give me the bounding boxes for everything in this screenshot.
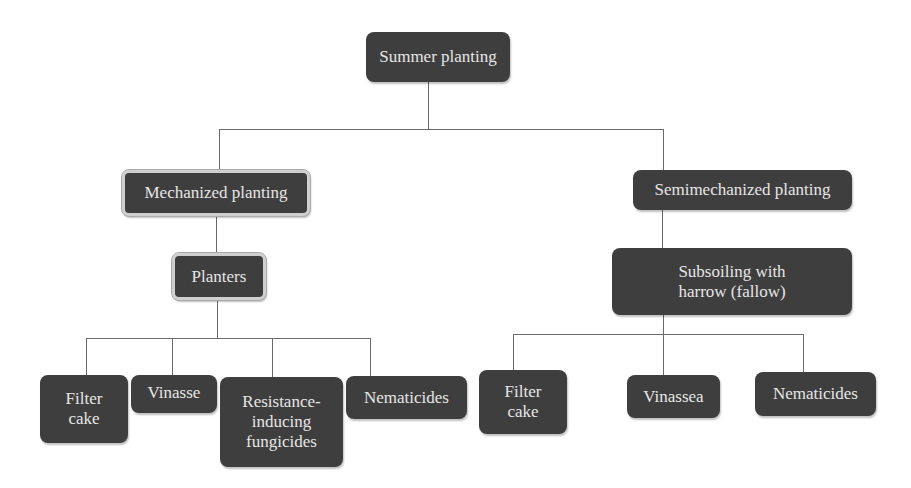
- node-label: Filter cake: [66, 389, 103, 429]
- connector-right-child-3: [803, 334, 804, 372]
- connector-left-child-2: [172, 338, 173, 375]
- node-label: Nematicides: [364, 388, 449, 408]
- node-left-vinasse: Vinasse: [131, 375, 217, 413]
- node-mechanized-planting: Mechanized planting: [122, 170, 310, 216]
- connector-left-child-1: [86, 338, 87, 375]
- node-label: Subsoiling with harrow (fallow): [678, 262, 785, 302]
- connector-subsoiling-down: [663, 315, 664, 334]
- node-label: Filter cake: [505, 382, 542, 422]
- connector-right-child-1: [513, 334, 514, 370]
- connector-semimech-to-subsoiling: [662, 210, 663, 248]
- node-label: Planters: [192, 267, 247, 287]
- connector-left-child-4: [370, 338, 371, 376]
- connector-to-semimechanized: [663, 129, 664, 170]
- node-right-filter-cake: Filter cake: [479, 370, 567, 434]
- connector-to-mechanized: [219, 129, 220, 170]
- connector-root-down: [428, 82, 429, 129]
- node-semimechanized-planting: Semimechanized planting: [633, 170, 852, 210]
- node-label: Summer planting: [379, 47, 497, 67]
- connector-right-child-2: [663, 334, 664, 375]
- node-label: Nematicides: [773, 384, 858, 404]
- connector-left-child-3: [272, 338, 273, 377]
- connector-right-children-bus: [513, 334, 804, 335]
- node-right-nematicides: Nematicides: [755, 372, 876, 416]
- connector-mechanized-to-planters: [216, 216, 217, 253]
- node-label: Vinassea: [643, 387, 703, 407]
- node-label: Mechanized planting: [144, 183, 287, 203]
- connector-root-bus: [219, 129, 664, 130]
- node-left-filter-cake: Filter cake: [40, 375, 128, 443]
- node-subsoiling-harrow: Subsoiling with harrow (fallow): [612, 248, 852, 315]
- node-left-nematicides: Nematicides: [346, 376, 467, 419]
- node-planters: Planters: [172, 253, 266, 300]
- node-label: Vinasse: [148, 383, 201, 403]
- node-label: Resistance- inducing fungicides: [242, 392, 320, 452]
- connector-planters-down: [217, 300, 218, 338]
- node-summer-planting: Summer planting: [366, 32, 510, 82]
- node-right-vinassea: Vinassea: [627, 375, 720, 418]
- node-label: Semimechanized planting: [654, 180, 830, 200]
- node-left-resistance-inducing-fungicides: Resistance- inducing fungicides: [220, 377, 343, 467]
- connector-left-children-bus: [86, 338, 371, 339]
